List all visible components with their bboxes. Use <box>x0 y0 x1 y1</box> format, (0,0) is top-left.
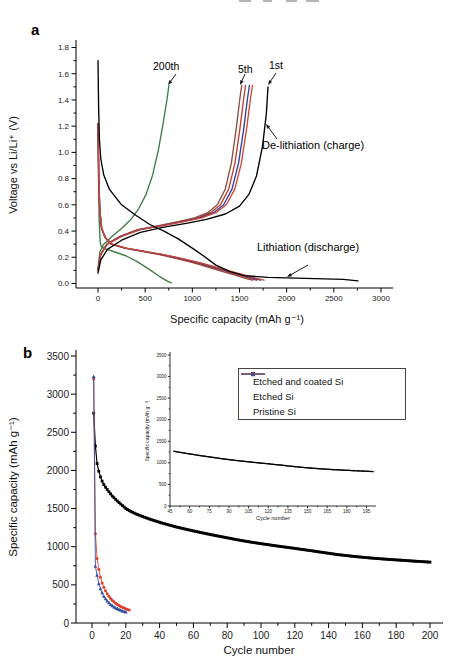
svg-text:500: 500 <box>52 579 69 590</box>
svg-text:0: 0 <box>89 630 95 641</box>
legend-label: Etched Si <box>253 391 294 402</box>
svg-text:120: 120 <box>264 509 272 514</box>
svg-text:0.4: 0.4 <box>58 227 70 236</box>
inset-x-axis-label: Cycle number <box>256 515 290 521</box>
svg-text:75: 75 <box>207 509 213 514</box>
figure-root: 0500100015002000250030000.00.20.40.60.81… <box>0 0 455 668</box>
svg-text:3500: 3500 <box>156 353 167 358</box>
figure-canvas: 0500100015002000250030000.00.20.40.60.81… <box>0 0 455 668</box>
legend-item-etched-coated: Etched and coated Si <box>247 374 405 389</box>
svg-text:180: 180 <box>388 630 405 641</box>
svg-text:0: 0 <box>96 294 101 303</box>
legend-marker-triangle <box>239 369 267 379</box>
svg-text:1.0: 1.0 <box>58 148 70 157</box>
svg-text:1.8: 1.8 <box>58 43 70 52</box>
svg-text:80: 80 <box>222 630 234 641</box>
annotation-lithiation: Lithiation (discharge) <box>257 241 359 253</box>
svg-text:140: 140 <box>320 630 337 641</box>
panel-a-axes: 0500100015002000250030000.00.20.40.60.81… <box>58 40 393 303</box>
svg-text:2000: 2000 <box>278 294 296 303</box>
annotation-200th: 200th <box>153 60 179 72</box>
svg-text:135: 135 <box>284 509 292 514</box>
svg-text:2500: 2500 <box>156 396 167 401</box>
svg-text:20: 20 <box>120 630 132 641</box>
legend-box: Etched and coated Si Etched Si Pristine … <box>238 368 406 420</box>
panel-b-x-axis-label: Cycle number <box>224 644 295 656</box>
svg-text:0.6: 0.6 <box>58 201 70 210</box>
svg-text:500: 500 <box>138 294 152 303</box>
svg-text:1500: 1500 <box>156 439 167 444</box>
svg-text:165: 165 <box>323 509 331 514</box>
panel-b-y-axis-label: Specific capacity (mAh g⁻¹) <box>6 417 20 557</box>
svg-text:2000: 2000 <box>156 417 167 422</box>
svg-text:1000: 1000 <box>183 294 201 303</box>
svg-text:90: 90 <box>226 509 232 514</box>
svg-text:1500: 1500 <box>231 294 249 303</box>
svg-text:60: 60 <box>187 509 193 514</box>
svg-text:1000: 1000 <box>156 460 167 465</box>
panel-b-letter: b <box>23 344 32 361</box>
legend-item-etched: Etched Si <box>247 389 405 404</box>
svg-text:1500: 1500 <box>47 503 70 514</box>
svg-text:2500: 2500 <box>47 427 70 438</box>
svg-text:1000: 1000 <box>47 541 70 552</box>
annotation-5th: 5th <box>238 63 253 75</box>
svg-text:45: 45 <box>167 509 173 514</box>
svg-text:150: 150 <box>304 509 312 514</box>
svg-text:0.8: 0.8 <box>58 174 70 183</box>
svg-text:160: 160 <box>354 630 371 641</box>
legend-item-pristine: Pristine Si <box>247 404 405 419</box>
svg-text:60: 60 <box>188 630 200 641</box>
svg-text:180: 180 <box>343 509 351 514</box>
annotation-delithiation: De-lithiation (charge) <box>262 139 364 151</box>
panel-a-x-axis-label: Specific capacity (mAh g⁻¹) <box>170 313 304 326</box>
panel-a-y-axis-label: Voltage vs Li/Li⁺ (V) <box>7 116 20 214</box>
svg-text:0: 0 <box>164 504 167 509</box>
svg-text:3000: 3000 <box>47 389 70 400</box>
svg-text:0.2: 0.2 <box>58 253 70 262</box>
annotation-1st: 1st <box>269 59 283 71</box>
inset-y-axis-label: Specific capacity (mAh g⁻¹) <box>144 400 150 461</box>
svg-text:3500: 3500 <box>47 351 70 362</box>
svg-text:0.0: 0.0 <box>58 279 70 288</box>
svg-text:2000: 2000 <box>47 465 70 476</box>
svg-text:120: 120 <box>286 630 303 641</box>
svg-text:2500: 2500 <box>325 294 343 303</box>
svg-text:40: 40 <box>154 630 166 641</box>
svg-text:195: 195 <box>363 509 371 514</box>
svg-text:3000: 3000 <box>372 294 390 303</box>
legend-label: Pristine Si <box>253 406 296 417</box>
svg-text:100: 100 <box>253 630 270 641</box>
svg-text:1.2: 1.2 <box>58 122 70 131</box>
panel-a-letter: a <box>31 21 39 38</box>
svg-text:500: 500 <box>159 482 167 487</box>
svg-text:105: 105 <box>245 509 253 514</box>
svg-text:3000: 3000 <box>156 374 167 379</box>
svg-text:1.4: 1.4 <box>58 96 70 105</box>
inset-series <box>173 451 373 473</box>
svg-text:1.6: 1.6 <box>58 70 70 79</box>
svg-text:0: 0 <box>63 618 69 629</box>
svg-text:200: 200 <box>422 630 439 641</box>
